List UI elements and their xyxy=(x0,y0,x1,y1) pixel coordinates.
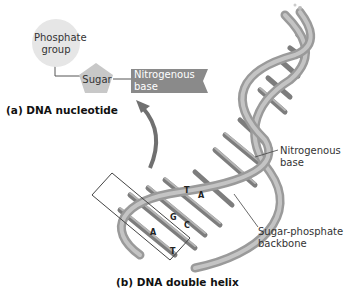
backbone-label-line1: Sugar-phosphate xyxy=(258,226,343,238)
phosphate-label-line1: Phosphate xyxy=(34,32,78,44)
helix-base-label-line2: base xyxy=(280,157,341,169)
phosphate-label: Phosphate group xyxy=(34,32,78,56)
base-letter: T xyxy=(184,186,190,195)
sugar-label: Sugar xyxy=(82,74,112,86)
base-letter: C xyxy=(184,221,190,230)
base-letter: A xyxy=(150,228,157,237)
nucleotide-caption: (a) DNA nucleotide xyxy=(6,104,118,116)
backbone-label: Sugar-phosphate backbone xyxy=(258,226,343,250)
base-label-line1: Nitrogenous xyxy=(134,69,195,81)
backbone-leader-line xyxy=(234,194,258,227)
base-letter: T xyxy=(170,247,176,256)
phosphate-label-line2: group xyxy=(34,44,78,56)
base-label-line2: base xyxy=(134,81,195,93)
backbone-label-line2: backbone xyxy=(258,238,343,250)
helix-caption: (b) DNA double helix xyxy=(116,276,239,288)
helix-base-label-line1: Nitrogenous xyxy=(280,145,341,157)
helix-base-label: Nitrogenous base xyxy=(280,145,341,169)
base-letter: G xyxy=(170,213,177,222)
base-letter: A xyxy=(198,191,205,200)
curved-arrow xyxy=(143,108,156,168)
base-label: Nitrogenous base xyxy=(134,69,195,93)
